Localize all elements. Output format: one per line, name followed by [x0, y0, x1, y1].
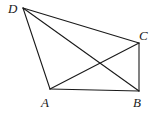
label-D: D [7, 1, 18, 16]
label-B: B [133, 95, 141, 110]
segment-DA [23, 8, 50, 89]
segment-DB [23, 8, 139, 91]
segment-AB [50, 89, 139, 91]
geometry-diagram: D C A B [0, 0, 154, 113]
segments [23, 8, 139, 91]
label-C: C [139, 28, 148, 43]
vertex-labels: D C A B [7, 1, 148, 110]
label-A: A [40, 95, 49, 110]
segment-DC [23, 8, 139, 43]
